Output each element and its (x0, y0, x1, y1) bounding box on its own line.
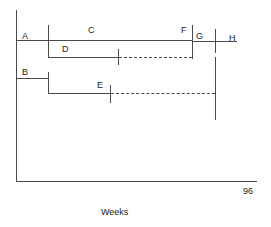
gantt-chart: A C F D G H B E 96 Weeks (0, 0, 271, 227)
activity-bar-a (16, 40, 48, 41)
riser-c-start (48, 25, 49, 41)
activity-float-e (111, 93, 215, 94)
tick-e-float-start (110, 85, 111, 103)
activity-label-b: B (22, 67, 28, 77)
riser-f-node (192, 25, 193, 59)
activity-label-a: A (22, 31, 28, 41)
activity-label-g: G (196, 31, 203, 41)
activity-float-d (119, 57, 192, 58)
activity-label-e: E (97, 80, 103, 90)
activity-bar-b (16, 78, 48, 79)
riser-d-start (48, 40, 49, 58)
x-axis-title: Weeks (101, 207, 128, 217)
activity-bar-d (48, 57, 118, 58)
y-axis (16, 10, 17, 181)
riser-b-start (48, 72, 49, 94)
activity-bar-c (48, 40, 192, 41)
activity-label-d: D (62, 44, 69, 54)
activity-label-c: C (88, 25, 95, 35)
activity-label-h: H (229, 33, 236, 43)
riser-e-end-node (215, 57, 216, 120)
tick-g-node-upper (215, 29, 216, 53)
activity-label-f: F (181, 25, 187, 35)
x-axis (16, 181, 257, 182)
x-axis-end-label: 96 (243, 186, 253, 196)
activity-bar-e (48, 93, 110, 94)
